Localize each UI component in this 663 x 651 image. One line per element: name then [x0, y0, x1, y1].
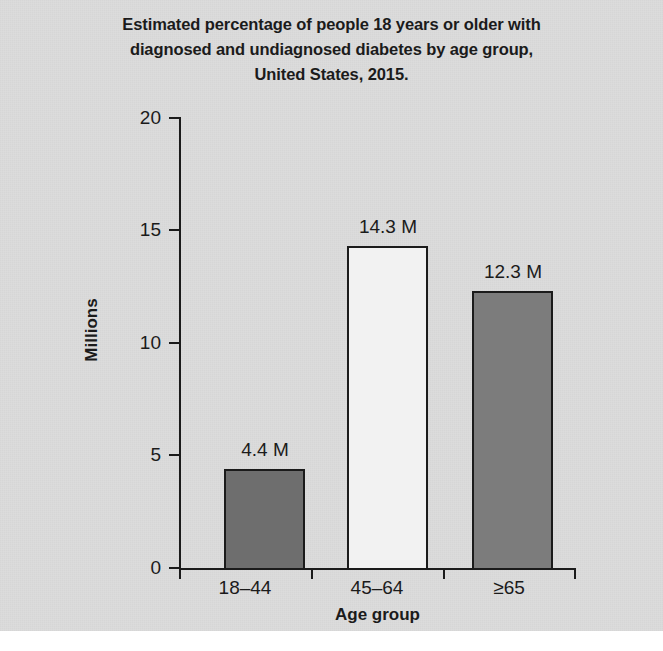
y-tick-20: [169, 117, 179, 119]
y-axis-title: Millions: [82, 230, 102, 430]
y-tick-label-10: 10: [117, 333, 161, 352]
bar-45-64[interactable]: [347, 246, 428, 570]
plot-area: 0 5 10 15 20 Millions 4.4 M 14.3 M 12.3 …: [0, 0, 663, 631]
bar-label-18-44: 4.4 M: [205, 440, 325, 459]
y-tick-label-20: 20: [117, 108, 161, 127]
x-category-label-65-plus: ≥65: [449, 578, 569, 597]
x-axis-title: Age group: [179, 605, 576, 625]
chart-figure-panel: Estimated percentage of people 18 years …: [0, 0, 663, 631]
y-tick-5: [169, 454, 179, 456]
y-tick-label-5: 5: [117, 445, 161, 464]
y-tick-10: [169, 342, 179, 344]
bar-label-65-plus: 12.3 M: [453, 262, 573, 281]
y-tick-0: [169, 567, 179, 569]
y-tick-label-0: 0: [117, 558, 161, 577]
x-tick-start: [179, 569, 181, 579]
x-tick-end: [574, 569, 576, 579]
y-axis-line: [179, 117, 181, 570]
figure-bottom-margin: [0, 631, 663, 651]
x-category-label-45-64: 45–64: [317, 578, 437, 597]
x-category-label-18-44: 18–44: [185, 578, 305, 597]
x-tick-2: [443, 569, 445, 579]
x-tick-1: [311, 569, 313, 579]
y-tick-label-15: 15: [117, 220, 161, 239]
bar-65-plus[interactable]: [472, 291, 553, 570]
bar-label-45-64: 14.3 M: [328, 217, 448, 236]
bar-18-44[interactable]: [224, 469, 305, 570]
y-tick-15: [169, 229, 179, 231]
